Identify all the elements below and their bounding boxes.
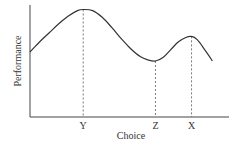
performance-curve xyxy=(30,9,212,61)
x-axis-label: Choice xyxy=(117,130,146,141)
x-tick-label-y: Y xyxy=(80,120,87,131)
x-tick-label-x: X xyxy=(188,120,196,131)
x-tick-label-z: Z xyxy=(152,120,158,131)
performance-chart: YZX Choice Performance xyxy=(0,0,241,149)
y-axis-label: Performance xyxy=(12,35,23,87)
